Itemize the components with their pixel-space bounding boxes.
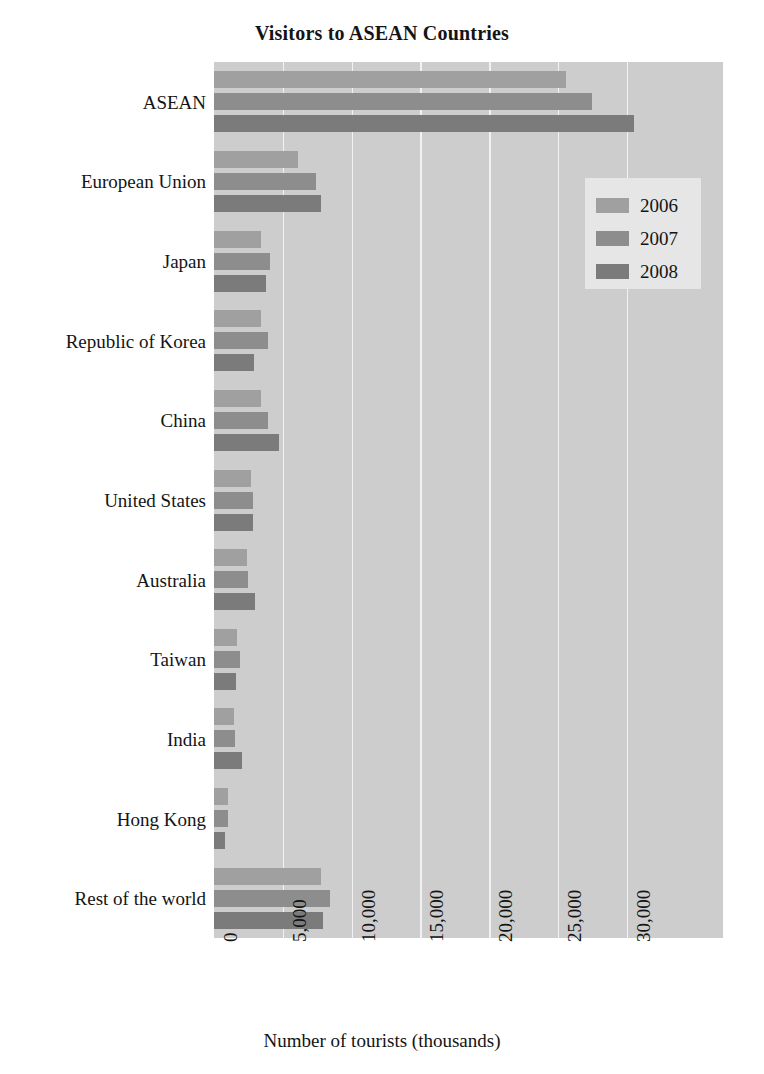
legend-entry-2006[interactable]: 2006 xyxy=(596,195,678,215)
bar-india-2008 xyxy=(214,752,242,769)
bar-united-states-2006 xyxy=(214,470,251,487)
y-label-india: India xyxy=(0,730,206,749)
bar-european-union-2008 xyxy=(214,195,321,212)
bar-taiwan-2007 xyxy=(214,651,240,668)
y-label-republic-of-korea: Republic of Korea xyxy=(0,332,206,351)
bar-india-2006 xyxy=(214,708,234,725)
x-tick-25000: 25,000 xyxy=(565,890,584,942)
x-tick-20000: 20,000 xyxy=(496,890,515,942)
legend-label-2008: 2008 xyxy=(640,262,678,281)
bar-united-states-2007 xyxy=(214,492,253,509)
bar-rest-of-the-world-2007 xyxy=(214,890,330,907)
y-label-asean: ASEAN xyxy=(0,93,206,112)
y-axis-category-labels: ASEANEuropean UnionJapanRepublic of Kore… xyxy=(0,62,206,938)
y-label-australia: Australia xyxy=(0,571,206,590)
legend-label-2006: 2006 xyxy=(640,196,678,215)
bar-republic-of-korea-2008 xyxy=(214,354,254,371)
y-label-united-states: United States xyxy=(0,491,206,510)
legend-swatch-2008 xyxy=(596,264,629,279)
bar-asean-2006 xyxy=(214,71,566,88)
y-label-rest-of-the-world: Rest of the world xyxy=(0,889,206,908)
bar-china-2008 xyxy=(214,434,279,451)
bar-hong-kong-2008 xyxy=(214,832,225,849)
legend-swatch-2007 xyxy=(596,231,629,246)
bar-china-2006 xyxy=(214,390,261,407)
x-tick-30000: 30,000 xyxy=(634,890,653,942)
y-label-japan: Japan xyxy=(0,252,206,271)
bar-japan-2007 xyxy=(214,253,270,270)
x-axis-tick-labels: 05,00010,00015,00020,00025,00030,000 xyxy=(0,938,764,1028)
bar-european-union-2007 xyxy=(214,173,316,190)
legend-entry-2008[interactable]: 2008 xyxy=(596,261,678,281)
x-axis-title: Number of tourists (thousands) xyxy=(0,1030,764,1052)
bar-china-2007 xyxy=(214,412,268,429)
bar-hong-kong-2006 xyxy=(214,788,228,805)
bar-australia-2006 xyxy=(214,549,247,566)
legend-swatch-2006 xyxy=(596,198,629,213)
y-label-hong-kong: Hong Kong xyxy=(0,810,206,829)
bar-australia-2007 xyxy=(214,571,248,588)
x-tick-5000: 5,000 xyxy=(290,899,309,942)
legend-entry-2007[interactable]: 2007 xyxy=(596,228,678,248)
bar-asean-2008 xyxy=(214,115,634,132)
bar-rest-of-the-world-2006 xyxy=(214,868,321,885)
y-label-european-union: European Union xyxy=(0,172,206,191)
chart-title: Visitors to ASEAN Countries xyxy=(0,22,764,45)
bar-hong-kong-2007 xyxy=(214,810,228,827)
bar-united-states-2008 xyxy=(214,514,253,531)
bar-taiwan-2006 xyxy=(214,629,237,646)
bar-india-2007 xyxy=(214,730,235,747)
bar-european-union-2006 xyxy=(214,151,298,168)
legend-label-2007: 2007 xyxy=(640,229,678,248)
y-label-china: China xyxy=(0,411,206,430)
x-tick-0: 0 xyxy=(221,933,240,943)
bar-japan-2006 xyxy=(214,231,261,248)
chart-legend: 200620072008 xyxy=(585,178,701,289)
x-tick-10000: 10,000 xyxy=(359,890,378,942)
bar-asean-2007 xyxy=(214,93,592,110)
bar-taiwan-2008 xyxy=(214,673,236,690)
y-label-taiwan: Taiwan xyxy=(0,650,206,669)
bar-australia-2008 xyxy=(214,593,255,610)
bar-japan-2008 xyxy=(214,275,266,292)
bar-republic-of-korea-2006 xyxy=(214,310,261,327)
bar-republic-of-korea-2007 xyxy=(214,332,268,349)
x-tick-15000: 15,000 xyxy=(427,890,446,942)
